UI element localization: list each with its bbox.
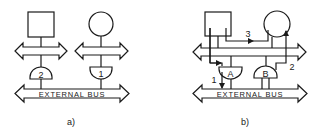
square-node <box>205 12 231 36</box>
diagram-canvas: 2 1 EXTERNAL BUS a) A B <box>0 0 323 135</box>
caption-a: a) <box>67 117 75 127</box>
external-bus-label: EXTERNAL BUS <box>217 90 283 99</box>
square-node <box>28 12 54 37</box>
path-1-arrow <box>210 28 221 63</box>
path-3-line <box>253 30 268 41</box>
diagram-a: 2 1 EXTERNAL BUS a) <box>15 12 129 127</box>
path-3-label: 3 <box>245 29 250 39</box>
gate-label: B <box>262 69 268 79</box>
path-2-label: 2 <box>289 62 294 72</box>
external-bus-label: EXTERNAL BUS <box>39 90 105 99</box>
diagram-b: A B 1 3 2 EXTERNAL BUS b) <box>193 11 307 127</box>
circle-node <box>89 12 113 36</box>
caption-b: b) <box>241 117 249 127</box>
gate-label: A <box>227 69 233 79</box>
gate-label: 1 <box>98 69 103 79</box>
gate-label: 2 <box>38 70 43 80</box>
path-1-label: 1 <box>211 75 216 85</box>
